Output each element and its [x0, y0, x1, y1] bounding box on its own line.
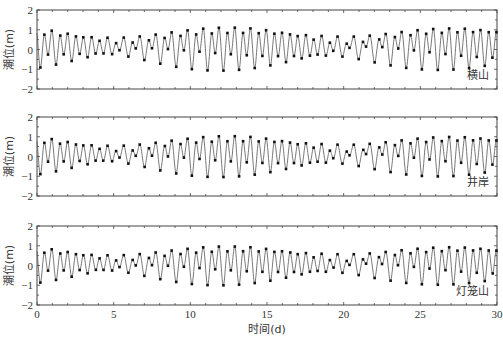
observed-point — [202, 27, 205, 30]
observed-point — [238, 283, 241, 286]
observed-point — [309, 270, 312, 273]
observed-point — [378, 38, 381, 41]
observed-point — [249, 246, 252, 249]
observed-point — [59, 34, 62, 37]
observed-point — [479, 247, 482, 250]
observed-point — [253, 173, 256, 176]
observed-point — [198, 267, 201, 270]
observed-point — [82, 36, 85, 39]
y-tick-label: 0 — [28, 44, 34, 56]
observed-point — [277, 55, 280, 58]
observed-point — [238, 69, 241, 72]
observed-point — [86, 163, 89, 166]
observed-point — [148, 39, 151, 42]
observed-point — [456, 31, 459, 34]
observed-point — [122, 144, 125, 147]
observed-point — [127, 162, 130, 165]
observed-point — [261, 162, 264, 165]
observed-point — [428, 51, 431, 54]
observed-point — [300, 164, 303, 167]
observed-point — [245, 54, 248, 57]
observed-point — [452, 175, 455, 178]
observed-point — [134, 47, 137, 50]
observed-point — [273, 141, 276, 144]
observed-point — [167, 265, 170, 268]
observed-point — [127, 271, 130, 274]
observed-point — [90, 144, 93, 147]
observed-point — [269, 279, 272, 282]
observed-point — [413, 266, 416, 269]
observed-point — [357, 274, 360, 277]
observed-point — [163, 37, 166, 40]
observed-point — [368, 143, 371, 146]
observed-point — [409, 142, 412, 145]
observed-point — [206, 176, 209, 179]
observed-point — [62, 269, 65, 272]
observed-point — [378, 146, 381, 149]
observed-point — [357, 165, 360, 168]
tide-panel-1: −2−1012潮位(m)横山 — [2, 4, 498, 95]
observed-point — [368, 252, 371, 255]
observed-point — [122, 254, 125, 257]
observed-point — [487, 31, 490, 34]
observed-point — [345, 260, 348, 263]
observed-point — [106, 254, 109, 257]
observed-point — [127, 55, 130, 58]
observed-point — [296, 253, 299, 256]
observed-point — [389, 279, 392, 282]
observed-point — [43, 142, 46, 145]
observed-point — [336, 253, 339, 256]
observed-point — [118, 266, 121, 269]
observed-point — [416, 247, 419, 250]
observed-point — [148, 147, 151, 150]
observed-point — [214, 52, 217, 55]
observed-point — [106, 144, 109, 147]
observed-point — [170, 139, 173, 142]
observed-point — [444, 53, 447, 56]
observed-point — [378, 256, 381, 259]
observed-point — [394, 254, 397, 257]
observed-point — [293, 271, 296, 274]
observed-point — [115, 150, 118, 153]
observed-point — [90, 254, 93, 257]
observed-point — [234, 135, 237, 138]
observed-point — [456, 249, 459, 252]
observed-point — [154, 33, 157, 36]
observed-point — [405, 282, 408, 285]
observed-point — [151, 154, 154, 157]
observed-point — [437, 175, 440, 178]
observed-point — [55, 279, 58, 282]
observed-point — [230, 160, 233, 163]
observed-point — [416, 137, 419, 140]
observed-point — [320, 35, 323, 38]
observed-point — [277, 162, 280, 165]
observed-point — [39, 173, 42, 176]
observed-point — [218, 135, 221, 138]
observed-point — [475, 56, 478, 59]
observed-point — [175, 66, 178, 69]
observed-point — [348, 154, 351, 157]
observed-point — [491, 272, 494, 275]
observed-point — [134, 155, 137, 158]
observed-point — [261, 271, 264, 274]
x-tick-label: 15 — [262, 308, 274, 320]
observed-point — [134, 264, 137, 267]
observed-point — [495, 139, 498, 142]
observed-point — [316, 270, 319, 273]
y-tick-label: −2 — [21, 83, 33, 95]
observed-point — [230, 53, 233, 56]
observed-point — [332, 50, 335, 53]
observed-point — [305, 34, 308, 37]
observed-point — [381, 153, 384, 156]
observed-point — [191, 68, 194, 71]
observed-point — [345, 150, 348, 153]
observed-point — [75, 253, 78, 256]
y-axis-label: 潮位(m) — [2, 136, 16, 177]
observed-point — [362, 258, 365, 261]
observed-point — [111, 269, 114, 272]
observed-point — [289, 141, 292, 144]
observed-point — [305, 252, 308, 255]
observed-point — [468, 282, 471, 285]
y-tick-label: 1 — [28, 24, 34, 36]
observed-point — [195, 251, 198, 254]
